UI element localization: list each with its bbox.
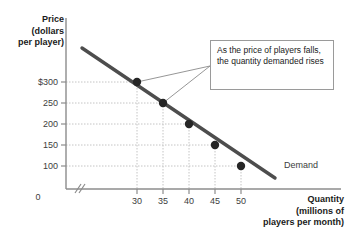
- data-point: [185, 120, 193, 128]
- x-tick-label-30: 30: [125, 196, 149, 206]
- callout-leader-lines: [137, 66, 210, 103]
- y-tick-label-100: 100: [22, 161, 58, 171]
- y-tick-label-200: 200: [22, 119, 58, 129]
- x-tick-label-40: 40: [177, 196, 201, 206]
- data-point: [133, 78, 141, 86]
- demand-curve-label: Demand: [284, 160, 318, 170]
- data-point: [211, 141, 219, 149]
- y-tick-label-150: 150: [22, 140, 58, 150]
- gridlines-vertical: [137, 82, 241, 189]
- y-tick-label-250: 250: [22, 98, 58, 108]
- data-point: [237, 162, 245, 170]
- y-axis-title: Price (dollars per player): [8, 14, 64, 49]
- x-tick-label-45: 45: [203, 196, 227, 206]
- demand-curve-chart: Price (dollars per player) Quantity (mil…: [0, 0, 349, 241]
- origin-label: 0: [28, 192, 48, 202]
- x-tick-label-35: 35: [151, 196, 175, 206]
- y-axis-ticks: [61, 82, 66, 166]
- data-point: [159, 99, 167, 107]
- x-tick-label-50: 50: [229, 196, 253, 206]
- y-tick-label-300: $300: [22, 77, 58, 87]
- annotation-callout: As the price of players falls, the quant…: [210, 40, 334, 90]
